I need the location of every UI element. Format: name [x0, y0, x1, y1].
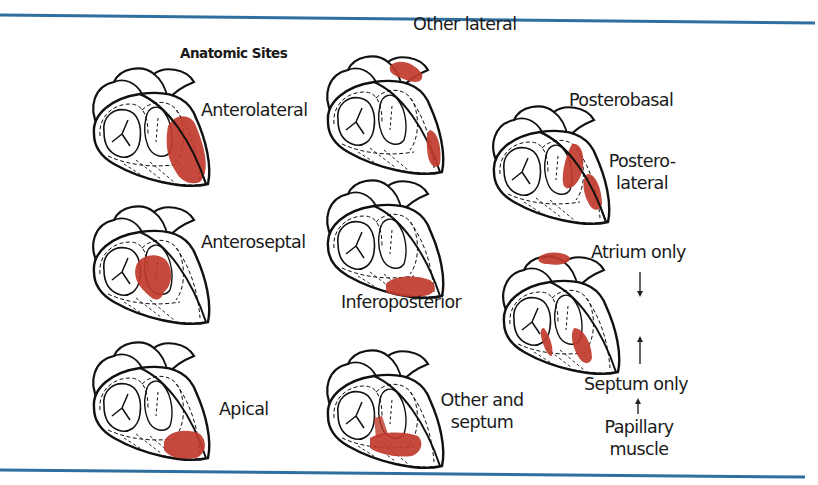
label-line: Postero- [607, 150, 677, 172]
bottom-rule [0, 470, 805, 477]
heart-anteroseptal [93, 206, 209, 323]
label-anterolateral: Anterolateral [201, 102, 307, 120]
label-posterobasal: Posterobasal [569, 92, 673, 110]
label-papillary-muscle: Papillary muscle [594, 416, 684, 460]
arrow-atrium-down [637, 272, 643, 297]
label-line: Papillary [594, 416, 684, 438]
infarct-region [164, 431, 205, 459]
diagram: Anatomic Sites Anterolateral Other later… [0, 0, 818, 485]
label-other-lateral: Other lateral [413, 16, 516, 34]
heart-other-and-septum [327, 350, 443, 467]
label-atrium-only: Atrium only [591, 244, 686, 262]
diagram-canvas [0, 0, 818, 485]
arrow-septum-up [637, 336, 643, 364]
heart-apical [93, 342, 209, 459]
arrow-papillary-up [635, 398, 641, 414]
label-line: lateral [607, 172, 677, 194]
label-septum-only: Septum only [584, 376, 688, 394]
heart-other-lateral [327, 56, 443, 173]
heart-inferoposterior [327, 180, 443, 297]
label-anteroseptal: Anteroseptal [201, 234, 305, 252]
label-line: Other and [434, 389, 530, 411]
heart-atrium-septum-papillary [503, 252, 619, 373]
infarct-region-atrium [538, 252, 570, 264]
heart-posterobasal [493, 106, 609, 223]
top-rule [0, 15, 815, 23]
label-posterolateral: Postero- lateral [607, 150, 677, 194]
diagram-title: Anatomic Sites [180, 47, 287, 61]
label-line: muscle [594, 438, 684, 460]
label-inferoposterior: Inferoposterior [341, 294, 461, 312]
heart-anterolateral [93, 68, 209, 185]
label-other-and-septum: Other and septum [434, 389, 530, 433]
label-apical: Apical [219, 401, 269, 419]
label-line: septum [434, 411, 530, 433]
